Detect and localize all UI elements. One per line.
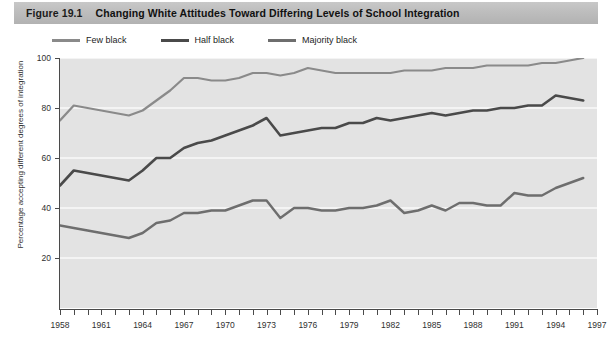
x-tick-mark xyxy=(446,310,447,315)
x-tick-mark xyxy=(101,310,102,315)
x-tick-label: 1958 xyxy=(43,320,77,330)
legend-swatch-half-black xyxy=(161,39,189,42)
x-tick-mark xyxy=(473,310,474,315)
x-tick-mark xyxy=(569,310,570,315)
y-tick-label: 40 xyxy=(29,203,51,213)
x-tick-mark xyxy=(501,310,502,315)
y-tick-label: 80 xyxy=(29,103,51,113)
x-tick-mark xyxy=(363,310,364,315)
legend-label-majority-black: Majority black xyxy=(302,35,357,45)
x-tick-mark xyxy=(322,310,323,315)
x-tick-mark xyxy=(377,310,378,315)
x-tick-mark xyxy=(514,310,515,315)
x-tick-label: 1973 xyxy=(250,320,284,330)
figure-container: Figure 19.1 Changing White Attitudes Tow… xyxy=(0,0,612,341)
y-tick-label: 20 xyxy=(29,253,51,263)
x-tick-mark xyxy=(280,310,281,315)
x-tick-mark xyxy=(335,310,336,315)
x-tick-label: 1991 xyxy=(497,320,531,330)
x-tick-mark xyxy=(239,310,240,315)
x-tick-mark xyxy=(225,310,226,315)
x-tick-mark xyxy=(60,310,61,315)
x-tick-label: 1976 xyxy=(291,320,325,330)
x-tick-mark xyxy=(267,310,268,315)
x-tick-label: 1985 xyxy=(415,320,449,330)
figure-title-text: Changing White Attitudes Toward Differin… xyxy=(96,7,460,19)
x-tick-label: 1982 xyxy=(373,320,407,330)
x-tick-label: 1988 xyxy=(456,320,490,330)
x-tick-mark xyxy=(597,310,598,315)
x-tick-mark xyxy=(143,310,144,315)
x-tick-mark xyxy=(556,310,557,315)
x-tick-label: 1997 xyxy=(580,320,612,330)
y-tick-label: 100 xyxy=(29,53,51,63)
legend-item-half-black: Half black xyxy=(161,35,235,45)
x-tick-label: 1994 xyxy=(539,320,573,330)
legend-item-majority-black: Majority black xyxy=(268,35,357,45)
x-tick-mark xyxy=(418,310,419,315)
x-tick-label: 1961 xyxy=(84,320,118,330)
x-tick-mark xyxy=(308,310,309,315)
x-tick-mark xyxy=(129,310,130,315)
x-tick-label: 1964 xyxy=(126,320,160,330)
x-tick-mark xyxy=(211,310,212,315)
x-tick-label: 1979 xyxy=(332,320,366,330)
x-tick-label: 1970 xyxy=(208,320,242,330)
x-tick-mark xyxy=(198,310,199,315)
x-tick-mark xyxy=(74,310,75,315)
x-tick-label: 1967 xyxy=(167,320,201,330)
x-tick-mark xyxy=(528,310,529,315)
y-axis-title: Percentage accepting different degrees o… xyxy=(16,45,25,265)
x-tick-mark xyxy=(253,310,254,315)
x-tick-mark xyxy=(156,310,157,315)
line-chart-svg xyxy=(60,58,597,308)
plot-area xyxy=(60,58,597,308)
figure-title-bar: Figure 19.1 Changing White Attitudes Tow… xyxy=(14,2,598,24)
figure-number-label: Figure 19.1 xyxy=(26,7,83,19)
x-axis-line xyxy=(59,309,598,310)
x-tick-mark xyxy=(542,310,543,315)
legend-label-few-black: Few black xyxy=(86,35,127,45)
x-tick-mark xyxy=(294,310,295,315)
legend-label-half-black: Half black xyxy=(195,35,235,45)
x-tick-mark xyxy=(115,310,116,315)
x-tick-mark xyxy=(349,310,350,315)
x-tick-mark xyxy=(432,310,433,315)
chart-legend: Few black Half black Majority black xyxy=(52,33,391,47)
y-axis-line xyxy=(59,58,60,310)
y-tick-label: 60 xyxy=(29,153,51,163)
x-tick-mark xyxy=(404,310,405,315)
series-line-few-black xyxy=(60,58,583,121)
x-tick-mark xyxy=(459,310,460,315)
legend-swatch-few-black xyxy=(52,39,80,42)
x-tick-mark xyxy=(583,310,584,315)
x-tick-mark xyxy=(88,310,89,315)
legend-swatch-majority-black xyxy=(268,39,296,42)
x-tick-mark xyxy=(170,310,171,315)
x-tick-mark xyxy=(184,310,185,315)
x-tick-mark xyxy=(390,310,391,315)
x-tick-mark xyxy=(487,310,488,315)
legend-item-few-black: Few black xyxy=(52,35,127,45)
